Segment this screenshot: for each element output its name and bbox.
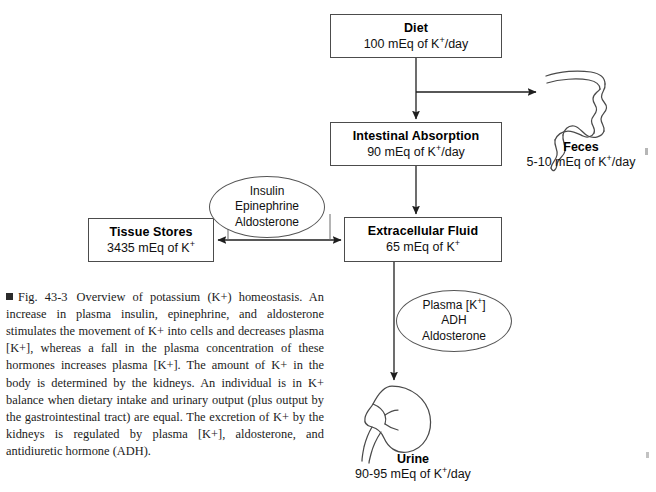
label-feces: Feces 5-10 mEq of K+/day [513,140,649,170]
node-tissue-stores-superscript: + [190,238,195,248]
ellipse-hormones-line-2: Epinephrine [235,199,299,214]
ellipse-renal-regulators-line-1-post: ] [482,298,485,312]
node-intestinal-absorption-title: Intestinal Absorption [353,129,480,144]
caption-bullet-icon [6,293,13,300]
node-diet-value-text: 100 mEq of K [364,37,440,51]
figure-caption: Fig. 43-3Overview of potassium (K+) home… [6,289,324,460]
caption-text: Overview of potassium (K+) homeostasis. … [6,290,324,458]
ellipse-renal-regulators: Plasma [K+] ADH Aldosterone [396,290,512,352]
ellipse-renal-regulators-line-1-pre: Plasma [K [422,298,477,312]
node-extracellular-fluid-superscript: + [455,238,460,248]
ellipse-hormones: Insulin Epinephrine Aldosterone [209,176,325,238]
scan-artifact [646,452,649,458]
node-intestinal-absorption-value-text: 90 mEq of K [367,145,436,159]
ellipse-hormones-line-1: Insulin [250,184,285,199]
label-feces-unit: /day [612,155,636,169]
label-urine-value: 90-95 mEq of K+/day [338,467,488,482]
node-intestinal-absorption-value: 90 mEq of K+/day [367,145,465,160]
node-diet: Diet 100 mEq of K+/day [330,14,502,58]
ellipse-renal-regulators-line-1: Plasma [K+] [422,298,485,313]
node-intestinal-absorption: Intestinal Absorption 90 mEq of K+/day [330,122,502,166]
caption-figure-number: Fig. 43-3 [18,290,68,304]
label-urine: Urine 90-95 mEq of K+/day [338,452,488,482]
label-feces-value-text: 5-10 mEq of K [527,155,607,169]
node-tissue-stores-value-text: 3435 mEq of K [107,241,190,255]
ellipse-renal-regulators-line-2: ADH [441,313,466,328]
node-tissue-stores-title: Tissue Stores [109,225,192,240]
label-feces-value: 5-10 mEq of K+/day [513,155,649,170]
label-feces-title: Feces [513,140,649,155]
node-extracellular-fluid-value-text: 65 mEq of K [386,240,455,254]
label-urine-value-text: 90-95 mEq of K [355,467,442,481]
node-diet-unit: /day [445,37,469,51]
node-tissue-stores-value: 3435 mEq of K+ [107,241,195,256]
node-diet-title: Diet [404,21,428,36]
ellipse-hormones-line-3: Aldosterone [235,215,299,230]
label-urine-unit: /day [447,467,471,481]
node-diet-value: 100 mEq of K+/day [364,37,469,52]
node-extracellular-fluid-title: Extracellular Fluid [368,224,478,239]
ellipse-renal-regulators-line-3: Aldosterone [422,329,486,344]
node-tissue-stores: Tissue Stores 3435 mEq of K+ [88,218,214,262]
node-extracellular-fluid-value: 65 mEq of K+ [386,240,460,255]
node-extracellular-fluid: Extracellular Fluid 65 mEq of K+ [344,217,502,262]
label-urine-title: Urine [338,452,488,467]
node-intestinal-absorption-unit: /day [441,145,465,159]
